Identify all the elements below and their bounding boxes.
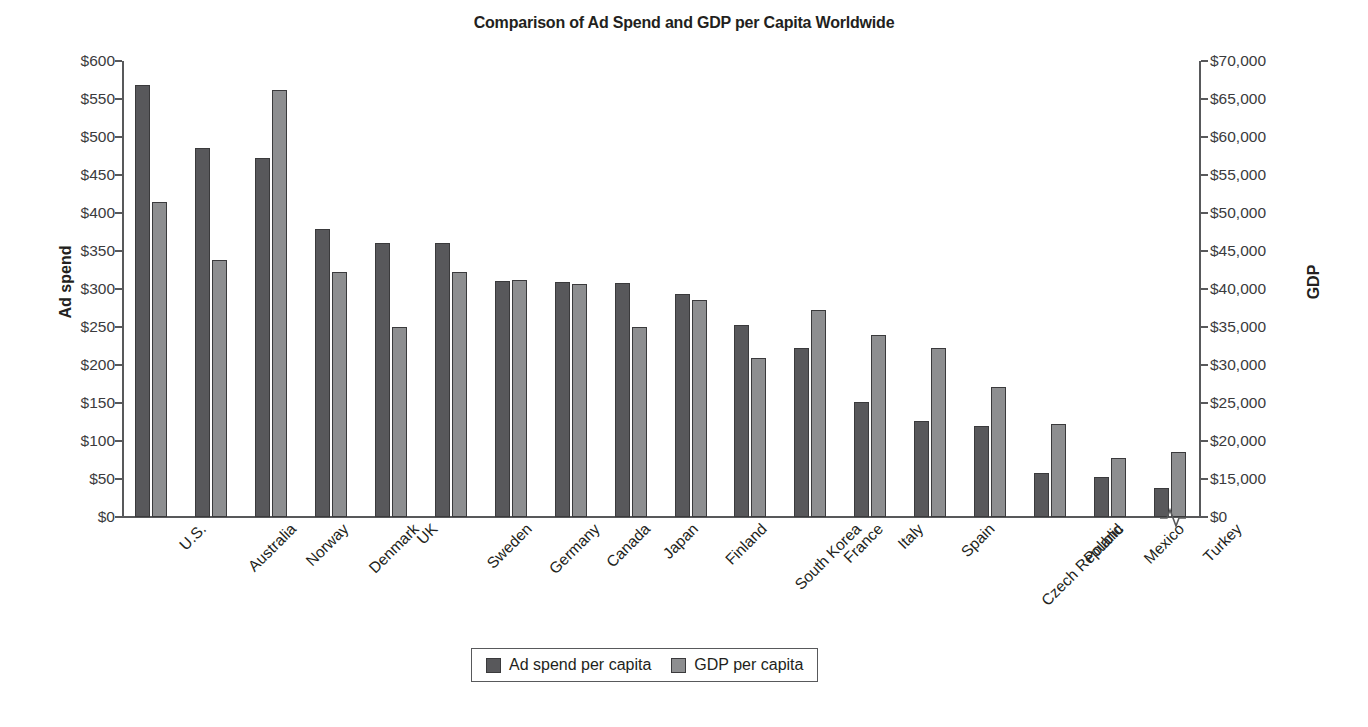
right-axis-tick (1201, 478, 1208, 480)
right-axis-tick (1201, 516, 1208, 518)
left-axis-tick-label: $100 (81, 433, 115, 449)
right-axis-tick-label: $45,000 (1210, 243, 1266, 259)
x-axis-label: Sweden (483, 520, 535, 572)
bar-ad-spend[interactable] (974, 426, 989, 517)
bar-ad-spend[interactable] (375, 243, 390, 517)
bar-gdp[interactable] (692, 300, 707, 517)
bar-group (732, 61, 768, 517)
left-axis-tick (115, 516, 122, 518)
right-axis-tick (1201, 250, 1208, 252)
left-axis-tick (115, 60, 122, 62)
bar-ad-spend[interactable] (555, 282, 570, 517)
bar-group (313, 61, 349, 517)
x-axis-label: Denmark (365, 520, 422, 577)
page-title: Comparison of Ad Spend and GDP per Capit… (0, 14, 1368, 32)
bar-group (133, 61, 169, 517)
left-axis-tick-label: $500 (81, 129, 115, 145)
bar-ad-spend[interactable] (794, 348, 809, 517)
left-axis-tick-label: $250 (81, 319, 115, 335)
right-axis-tick (1201, 402, 1208, 404)
right-axis-tick-label: $50,000 (1210, 205, 1266, 221)
left-axis-tick-label: $150 (81, 395, 115, 411)
x-axis-label: Germany (545, 520, 603, 578)
x-axis-label: Spain (958, 520, 999, 561)
left-axis-tick (115, 326, 122, 328)
bar-gdp[interactable] (212, 260, 227, 517)
bar-gdp[interactable] (152, 202, 167, 517)
bar-group (373, 61, 409, 517)
bar-ad-spend[interactable] (135, 85, 150, 517)
bar-gdp[interactable] (871, 335, 886, 517)
bar-gdp[interactable] (811, 310, 826, 517)
bar-group (613, 61, 649, 517)
right-axis-tick-label: $25,000 (1210, 395, 1266, 411)
right-axis-tick-label: $15,000 (1210, 471, 1266, 487)
bar-gdp[interactable] (452, 272, 467, 517)
bar-group (433, 61, 469, 517)
right-axis-tick-label: $65,000 (1210, 91, 1266, 107)
bar-ad-spend[interactable] (1034, 473, 1049, 517)
bar-gdp[interactable] (392, 327, 407, 517)
bar-ad-spend[interactable] (315, 229, 330, 517)
x-axis-label: Japan (659, 520, 702, 563)
bar-gdp[interactable] (572, 284, 587, 517)
bar-ad-spend[interactable] (495, 281, 510, 517)
legend-label-ad-spend: Ad spend per capita (509, 656, 651, 674)
bar-group (1092, 61, 1128, 517)
x-axis-label: Norway (302, 520, 352, 570)
bar-ad-spend[interactable] (734, 325, 749, 517)
chart-figure: Comparison of Ad Spend and GDP per Capit… (0, 0, 1368, 727)
right-axis-tick (1201, 174, 1208, 176)
bar-ad-spend[interactable] (675, 294, 690, 517)
bar-gdp[interactable] (332, 272, 347, 517)
bar-gdp[interactable] (632, 327, 647, 517)
bar-gdp[interactable] (751, 358, 766, 517)
right-axis-tick (1201, 136, 1208, 138)
legend-item-gdp[interactable]: GDP per capita (671, 656, 803, 674)
right-axis-tick (1201, 98, 1208, 100)
bar-ad-spend[interactable] (255, 158, 270, 517)
bar-ad-spend[interactable] (914, 421, 929, 517)
bar-gdp[interactable] (1111, 458, 1126, 517)
right-axis-tick (1201, 364, 1208, 366)
legend-swatch-gdp (671, 658, 686, 673)
x-axis-label: U.S. (176, 520, 210, 554)
bar-ad-spend[interactable] (435, 243, 450, 517)
bar-group (1032, 61, 1068, 517)
left-axis-tick-label: $350 (81, 243, 115, 259)
x-axis-label: Australia (245, 520, 300, 575)
left-axis-tick (115, 174, 122, 176)
legend-label-gdp: GDP per capita (694, 656, 803, 674)
axis-break-icon (1160, 506, 1186, 530)
bar-gdp[interactable] (512, 280, 527, 517)
left-axis-tick (115, 136, 122, 138)
right-axis-tick-label: $40,000 (1210, 281, 1266, 297)
bar-group (912, 61, 948, 517)
left-axis-tick-label: $50 (89, 471, 115, 487)
bar-series-container (122, 61, 1201, 517)
bar-ad-spend[interactable] (195, 148, 210, 517)
right-axis-tick-label: $55,000 (1210, 167, 1266, 183)
right-axis-tick (1201, 212, 1208, 214)
right-axis-tick (1201, 288, 1208, 290)
left-axis-tick-label: $300 (81, 281, 115, 297)
bar-gdp[interactable] (1051, 424, 1066, 517)
legend-swatch-ad-spend (486, 658, 501, 673)
bar-gdp[interactable] (272, 90, 287, 517)
left-axis-tick (115, 250, 122, 252)
right-axis-title: GDP (1305, 265, 1323, 300)
right-axis-tick-label: $70,000 (1210, 53, 1266, 69)
left-axis-tick (115, 212, 122, 214)
bar-gdp[interactable] (931, 348, 946, 517)
bar-gdp[interactable] (991, 387, 1006, 517)
left-axis-tick-label: $400 (81, 205, 115, 221)
legend-item-ad-spend[interactable]: Ad spend per capita (486, 656, 651, 674)
bar-group (852, 61, 888, 517)
x-axis-category-labels: U.S.AustraliaNorwayDenmarkUKSwedenGerman… (122, 520, 1201, 630)
bar-ad-spend[interactable] (854, 402, 869, 517)
chart-legend: Ad spend per capita GDP per capita (471, 648, 818, 682)
bar-ad-spend[interactable] (1094, 477, 1109, 517)
left-axis-tick-label: $200 (81, 357, 115, 373)
bar-ad-spend[interactable] (615, 283, 630, 517)
x-axis-label: Finland (721, 520, 770, 569)
